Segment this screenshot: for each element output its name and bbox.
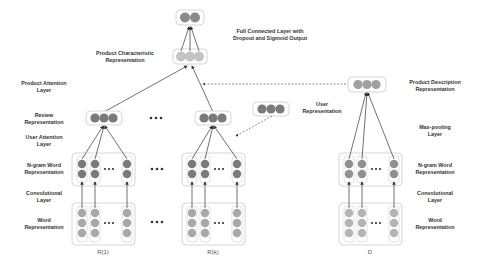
caption-description: D bbox=[368, 249, 372, 255]
description-word-block bbox=[339, 203, 402, 245]
review-k-word-block bbox=[182, 203, 245, 245]
review-1-word-block bbox=[72, 203, 135, 245]
label-convolutional-layer-left: Convolutional Layer bbox=[24, 190, 64, 204]
output-node bbox=[176, 10, 204, 25]
label-product-description-representation: Product Description Representation bbox=[405, 79, 465, 93]
product-description-node bbox=[348, 77, 386, 92]
product-characteristic-node bbox=[173, 49, 207, 64]
caption-review-last: R(k) bbox=[207, 249, 218, 255]
label-word-representation-left: Word Representation bbox=[19, 217, 69, 231]
label-word-representation-right: Word Representation bbox=[410, 217, 460, 231]
caption-review-first: R(1) bbox=[97, 249, 109, 255]
label-user-attention-layer: User Attention Layer bbox=[22, 134, 66, 148]
user-representation-node bbox=[253, 102, 289, 116]
label-fc-line1: Full Connected Layer with bbox=[236, 28, 303, 35]
label-user-representation: User Representation bbox=[300, 101, 345, 115]
label-review-representation: Review Representation bbox=[19, 112, 69, 126]
label-max-pooling-layer: Max-pooling Layer bbox=[415, 124, 455, 138]
review-1-ngram-block bbox=[72, 153, 135, 186]
label-product-characteristic-representation: Product Characteristic Representation bbox=[90, 50, 160, 64]
label-product-attention-layer: Product Attention Layer bbox=[19, 80, 69, 94]
label-convolutional-layer-right: Convolutional Layer bbox=[415, 190, 455, 204]
review-representation-1 bbox=[86, 111, 122, 125]
description-ngram-block bbox=[339, 153, 402, 186]
review-k-ngram-block bbox=[182, 153, 245, 186]
label-fc-line2: Dropout and Sigmoid Output bbox=[233, 35, 307, 42]
label-ngram-word-representation-right: N-gram Word Representation bbox=[410, 162, 460, 176]
review-representation-k bbox=[195, 111, 231, 125]
label-ngram-word-representation-left: N-gram Word Representation bbox=[19, 162, 69, 176]
